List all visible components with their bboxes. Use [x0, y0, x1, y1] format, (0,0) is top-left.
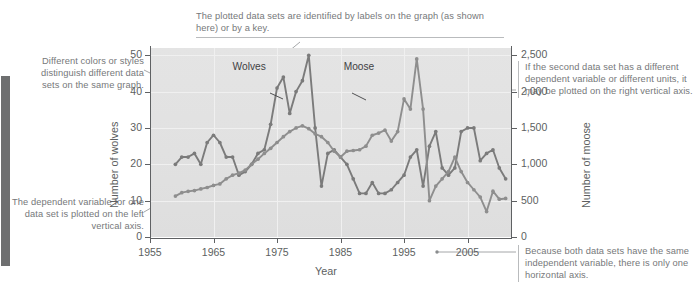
- right-axis-tick-label: 2,500: [521, 48, 547, 60]
- left-axis-tick: [145, 92, 150, 93]
- right-axis-tick: [512, 92, 517, 93]
- x-axis-tick-label: 1985: [316, 246, 366, 258]
- right-axis-tick: [512, 237, 517, 238]
- left-axis-tick: [145, 164, 150, 165]
- x-axis-tick: [404, 238, 405, 243]
- x-axis-tick-label: 1955: [125, 246, 175, 258]
- right-axis-tick-label: 1,500: [521, 121, 547, 133]
- right-axis-tick: [512, 164, 517, 165]
- x-axis-tick: [150, 238, 151, 243]
- right-axis-tick-label: 1,000: [521, 157, 547, 169]
- left-axis-tick-label: 20: [108, 157, 142, 169]
- figure-root: The plotted data sets are identified by …: [0, 0, 693, 302]
- left-axis-tick-label: 30: [108, 121, 142, 133]
- x-axis-tick: [277, 238, 278, 243]
- x-axis-tick: [341, 238, 342, 243]
- right-axis-tick: [512, 128, 517, 129]
- y2-axis-title: Number of moose: [580, 122, 592, 208]
- x-axis-tick-label: 1975: [252, 246, 302, 258]
- x-axis-tick: [468, 238, 469, 243]
- left-axis-tick: [145, 55, 150, 56]
- right-axis-tick: [512, 201, 517, 202]
- x-axis-tick-label: 2005: [443, 246, 493, 258]
- right-axis-tick-label: 2,000: [521, 85, 547, 97]
- x-axis-tick-label: 1965: [189, 246, 239, 258]
- right-axis-tick: [512, 55, 517, 56]
- left-axis-tick-label: 40: [108, 85, 142, 97]
- x-axis-title: Year: [315, 265, 337, 277]
- left-axis-tick-label: 50: [108, 48, 142, 60]
- left-axis-tick: [145, 128, 150, 129]
- left-axis-tick-label: 0: [108, 230, 142, 242]
- left-axis-tick-label: 10: [108, 194, 142, 206]
- x-axis-tick-label: 1995: [379, 246, 429, 258]
- right-axis-tick-label: 0: [521, 230, 527, 242]
- left-axis-tick: [145, 201, 150, 202]
- right-axis-tick-label: 500: [521, 194, 539, 206]
- x-axis-tick: [214, 238, 215, 243]
